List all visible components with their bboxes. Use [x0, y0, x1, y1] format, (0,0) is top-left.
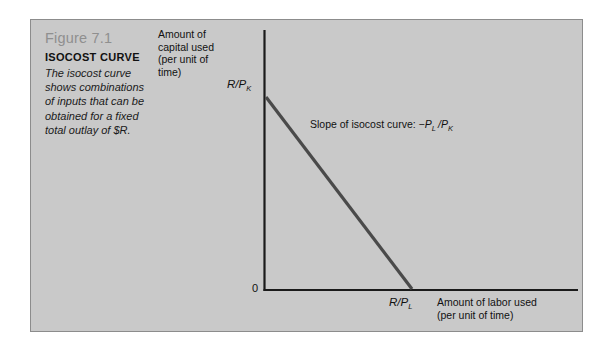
- x-intercept-label: R/PL: [389, 296, 412, 308]
- slope-numerator-text: P: [425, 118, 432, 130]
- y-intercept-label: R/PK: [227, 78, 251, 90]
- slope-numerator-subscript: L: [432, 124, 436, 133]
- description-line: of inputs that can be: [45, 94, 205, 108]
- x-axis-label: Amount of labor used (per unit of time): [437, 296, 537, 321]
- y-intercept-subscript: K: [246, 84, 251, 93]
- slope-denominator-text: P: [441, 118, 448, 130]
- description-line: total outlay of $R.: [45, 123, 205, 137]
- slope-annotation: Slope of isocost curve: −PL /PK: [310, 118, 453, 130]
- slope-denominator-subscript: K: [448, 124, 453, 133]
- description-line: obtained for a fixed: [45, 109, 205, 123]
- description-line: shows combinations: [45, 80, 205, 94]
- y-axis-label: Amount of capital used (per unit of time…: [158, 28, 258, 78]
- x-intercept-text: R/P: [389, 296, 408, 308]
- y-axis-label-line: capital used: [158, 41, 258, 54]
- x-intercept-subscript: L: [408, 302, 412, 311]
- origin-label: 0: [252, 282, 258, 294]
- y-intercept-text: R/P: [227, 78, 246, 90]
- y-axis-label-line: (per unit of: [158, 53, 258, 66]
- slope-prefix-text: Slope of isocost curve: −: [310, 118, 425, 130]
- y-axis-label-line: time): [158, 66, 258, 79]
- figure-container: Figure 7.1 ISOCOST CURVE The isocost cur…: [0, 0, 610, 356]
- y-axis-label-line: Amount of: [158, 28, 258, 41]
- x-axis-label-line: (per unit of time): [437, 309, 537, 322]
- x-axis-label-line: Amount of labor used: [437, 296, 537, 309]
